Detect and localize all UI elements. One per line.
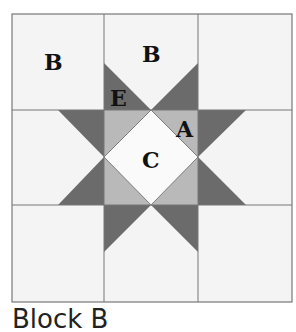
label-a: A: [175, 116, 194, 142]
label-e: E: [110, 85, 127, 111]
label-b-top-center: B: [142, 41, 161, 67]
block-caption: Block B: [12, 304, 108, 332]
label-b-top-left: B: [44, 49, 63, 75]
label-c: C: [142, 147, 160, 173]
